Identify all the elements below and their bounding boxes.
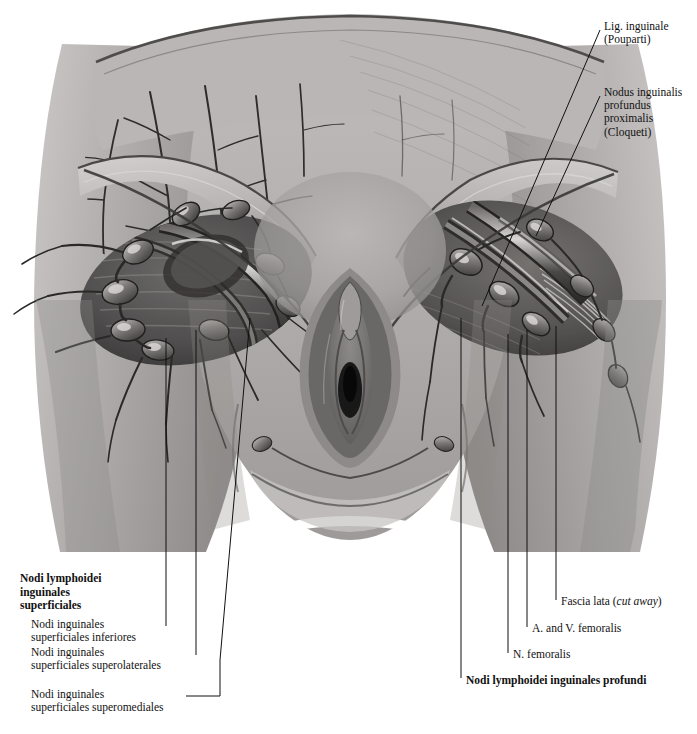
label-n-femoralis: N. femoralis [513, 648, 570, 661]
label-nodi-superomediales: Nodi inguinales superficiales superomedi… [31, 688, 164, 714]
label-nodi-superficiales-heading: Nodi lymphoidei inguinales superficiales [20, 572, 101, 613]
fascia-lata-prefix: Fascia lata ( [561, 595, 617, 607]
fascia-lata-italic: cut away [617, 595, 658, 607]
label-lig-inguinale: Lig. inguinale (Pouparti) [604, 20, 669, 46]
label-fascia-lata: Fascia lata (cut away) [561, 595, 662, 608]
fascia-lata-suffix: ) [658, 595, 662, 607]
label-a-v-femoralis: A. and V. femoralis [532, 622, 621, 635]
label-nodi-profundi-heading: Nodi lymphoidei inguinales profundi [466, 674, 646, 688]
label-nodi-superolaterales: Nodi inguinales superficiales superolate… [31, 646, 161, 672]
label-nodi-inferiores: Nodi inguinales superficiales inferiores [31, 618, 136, 644]
label-nodus-cloqueti: Nodus inguinalis profundus proximalis (C… [604, 86, 682, 139]
